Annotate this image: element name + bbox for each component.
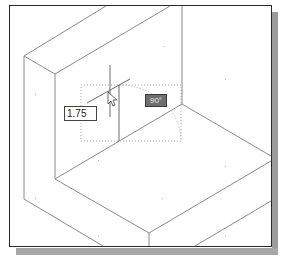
model-edges [24, 6, 271, 246]
pointer-arrow-icon [108, 92, 117, 106]
grid-points [35, 46, 226, 237]
isometric-model-drawing [0, 0, 282, 266]
dimension-input[interactable]: 1.75 [64, 106, 97, 121]
angle-tooltip: 90° [145, 94, 167, 107]
